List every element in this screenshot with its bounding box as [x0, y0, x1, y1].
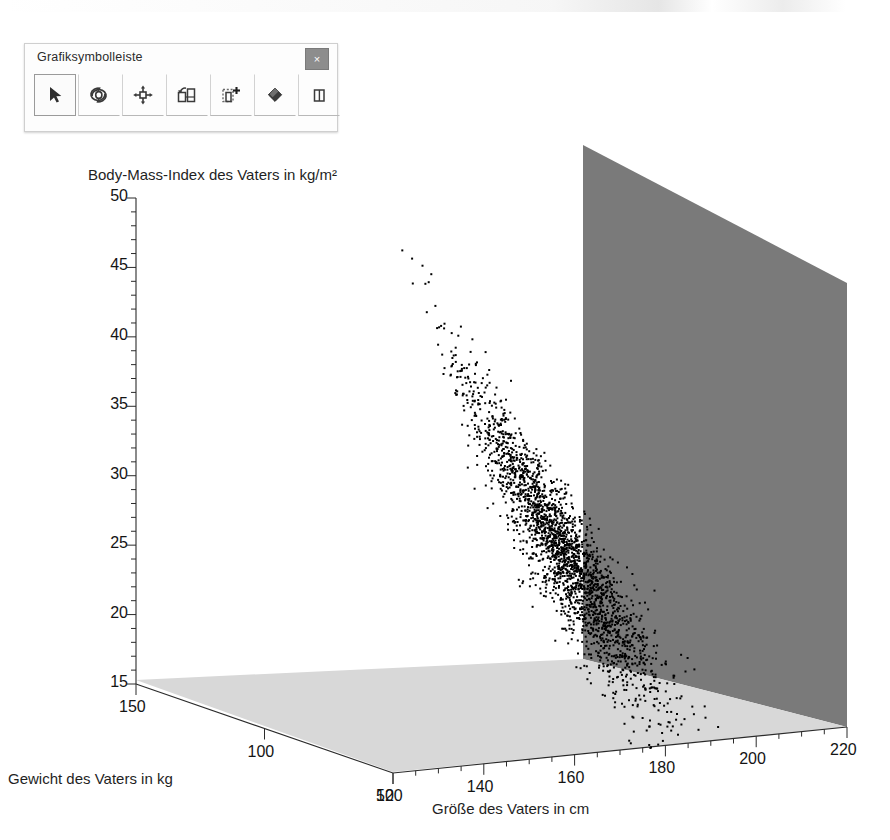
swap-objects-icon	[175, 85, 199, 105]
tick-label: 200	[739, 750, 766, 768]
tick-label: 140	[467, 778, 494, 796]
tick-label: 160	[558, 769, 585, 787]
toolbar-button-group[interactable]	[34, 74, 340, 116]
arrow-pointer-icon	[45, 85, 65, 105]
tick-label: 30	[84, 465, 128, 483]
tick-label: 40	[84, 326, 128, 344]
toolbar-button-rotate[interactable]	[78, 74, 120, 116]
eraser-icon	[265, 85, 285, 105]
tick-label: 45	[84, 256, 128, 274]
x-axis-title: Größe des Vaters in cm	[432, 800, 589, 817]
toolbar-title: Grafiksymbolleiste	[37, 50, 143, 64]
toolbar-button-pan-move[interactable]	[122, 74, 164, 116]
toolbar-button-erase[interactable]	[254, 74, 296, 116]
tick-label: 120	[376, 787, 403, 805]
tick-label: 20	[84, 604, 128, 622]
move-arrows-icon	[131, 85, 155, 105]
toolbar-button-show-panel[interactable]	[298, 74, 340, 116]
add-element-icon	[220, 85, 242, 105]
tick-label: 100	[248, 743, 275, 761]
tick-label: 50	[84, 187, 128, 205]
close-icon[interactable]: ×	[305, 48, 329, 70]
rotate-icon	[88, 85, 110, 105]
toolbar-button-add-element[interactable]	[210, 74, 252, 116]
tick-label: 150	[119, 698, 146, 716]
page-title: Body-Mass-Index des Vaters in kg/m²	[88, 166, 337, 183]
toolbar-button-reorder-objects[interactable]	[166, 74, 208, 116]
z-axis-ticks	[127, 198, 136, 684]
tick-label: 180	[648, 759, 675, 777]
tick-label: 25	[84, 534, 128, 552]
scan-artifact-band	[0, 0, 890, 12]
scatter-plot-3d: Body-Mass-Index des Vaters in kg/m² Gewi…	[0, 135, 890, 840]
toolbar-button-select-arrow[interactable]	[34, 74, 76, 116]
graphics-toolbar-window[interactable]: Grafiksymbolleiste ×	[24, 43, 338, 132]
tick-label: 35	[84, 395, 128, 413]
y-axis-title: Gewicht des Vaters in kg	[8, 770, 173, 787]
tick-label: 220	[830, 741, 857, 759]
tick-label: 15	[84, 673, 128, 691]
plot-canvas	[0, 135, 890, 840]
panel-icon	[309, 85, 329, 105]
toolbar-titlebar[interactable]: Grafiksymbolleiste ×	[25, 44, 337, 74]
